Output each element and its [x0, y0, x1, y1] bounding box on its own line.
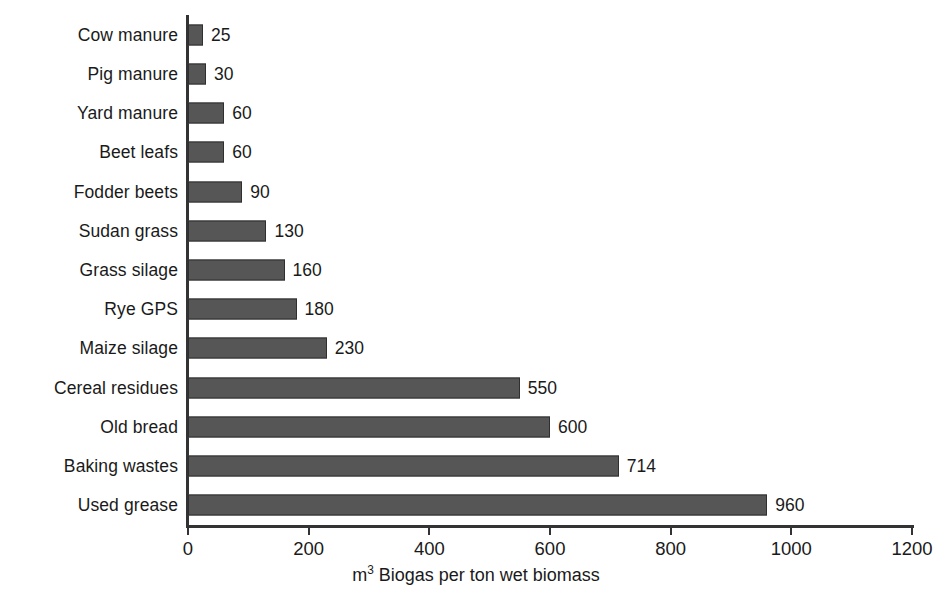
- bar-value-label: 230: [335, 338, 364, 359]
- bar-rows: Cow manure25Pig manure30Yard manure60Bee…: [188, 15, 912, 525]
- bar: [188, 220, 266, 241]
- bar-value-label: 90: [250, 181, 269, 202]
- bar-row: Cereal residues550: [188, 368, 912, 407]
- category-label: Used grease: [78, 495, 178, 516]
- bar-value-label: 30: [214, 63, 233, 84]
- bar-row: Yard manure60: [188, 93, 912, 132]
- bar-value-label: 160: [293, 259, 322, 280]
- bar: [188, 456, 619, 477]
- x-axis-title-text: Biogas per ton wet biomass: [374, 565, 600, 585]
- x-axis-tick-label: 600: [535, 538, 566, 560]
- bar-value-label: 130: [274, 220, 303, 241]
- bar-row: Pig manure30: [188, 54, 912, 93]
- x-axis-title-exponent: 3: [367, 563, 374, 577]
- bar: [188, 495, 767, 516]
- bar: [188, 63, 206, 84]
- bar: [188, 259, 285, 280]
- x-axis-tick-label: 800: [655, 538, 686, 560]
- bar: [188, 181, 242, 202]
- x-axis-tick-label: 0: [183, 538, 193, 560]
- bar-value-label: 550: [528, 377, 557, 398]
- x-axis-tick-label: 1200: [891, 538, 932, 560]
- category-label: Cow manure: [78, 24, 178, 45]
- x-axis-tick: [790, 525, 792, 535]
- bar: [188, 338, 327, 359]
- bar-row: Baking wastes714: [188, 447, 912, 486]
- x-axis-tick: [911, 525, 913, 535]
- category-label: Sudan grass: [79, 220, 178, 241]
- category-label: Baking wastes: [64, 456, 178, 477]
- bar-row: Fodder beets90: [188, 172, 912, 211]
- bar: [188, 142, 224, 163]
- category-label: Cereal residues: [54, 377, 178, 398]
- bar-value-label: 25: [211, 24, 230, 45]
- bar-value-label: 960: [775, 495, 804, 516]
- bar-value-label: 60: [232, 142, 251, 163]
- bar-value-label: 180: [305, 299, 334, 320]
- x-axis-tick: [670, 525, 672, 535]
- category-label: Fodder beets: [74, 181, 178, 202]
- bar-value-label: 60: [232, 103, 251, 124]
- x-axis-tick-label: 200: [293, 538, 324, 560]
- category-label: Grass silage: [80, 259, 178, 280]
- bar-row: Beet leafs60: [188, 133, 912, 172]
- bar-chart: Cow manure25Pig manure30Yard manure60Bee…: [0, 0, 952, 606]
- bar: [188, 416, 550, 437]
- bar-value-label: 714: [627, 456, 656, 477]
- x-axis-tick-label: 400: [414, 538, 445, 560]
- x-axis-tick: [428, 525, 430, 535]
- bar: [188, 377, 520, 398]
- bar: [188, 24, 203, 45]
- x-axis-tick: [308, 525, 310, 535]
- bar-row: Sudan grass130: [188, 211, 912, 250]
- x-axis-tick: [549, 525, 551, 535]
- bar-row: Maize silage230: [188, 329, 912, 368]
- category-label: Pig manure: [88, 63, 179, 84]
- bar: [188, 103, 224, 124]
- x-axis-title: m3 Biogas per ton wet biomass: [0, 565, 952, 586]
- bar-row: Cow manure25: [188, 15, 912, 54]
- category-label: Old bread: [100, 416, 178, 437]
- category-label: Yard manure: [77, 103, 178, 124]
- bar: [188, 299, 297, 320]
- bar-value-label: 600: [558, 416, 587, 437]
- bar-row: Used grease960: [188, 486, 912, 525]
- category-label: Maize silage: [80, 338, 178, 359]
- bar-row: Rye GPS180: [188, 290, 912, 329]
- plot-area: Cow manure25Pig manure30Yard manure60Bee…: [188, 15, 912, 525]
- bar-row: Old bread600: [188, 407, 912, 446]
- x-axis-title-unit: m: [352, 565, 367, 585]
- bar-row: Grass silage160: [188, 250, 912, 289]
- category-label: Beet leafs: [99, 142, 178, 163]
- x-axis-tick-label: 1000: [771, 538, 812, 560]
- x-axis-tick: [187, 525, 189, 535]
- category-label: Rye GPS: [104, 299, 178, 320]
